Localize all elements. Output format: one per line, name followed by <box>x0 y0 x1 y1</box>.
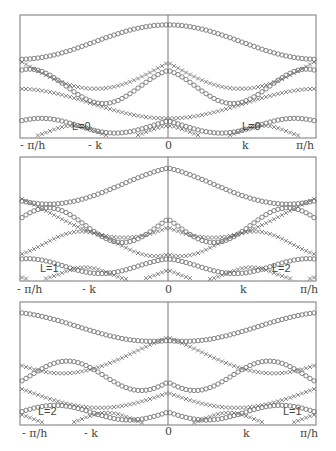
chart-panel-bottom: L=2 L=1 - π/h - k 0 k π/h <box>0 300 336 451</box>
annotation-left: L=1 <box>40 262 59 274</box>
x-tick-neg-pi-h: - π/h <box>22 427 47 440</box>
annotation-right: L=0 <box>242 120 261 132</box>
x-tick-neg-pi-h: - π/h <box>17 283 42 296</box>
x-tick-neg-k: - k <box>82 283 96 296</box>
x-tick-neg-k: - k <box>84 427 98 440</box>
plot-area-top <box>0 0 336 150</box>
annotation-left: L=0 <box>72 120 91 132</box>
x-tick-pi-h: π/h <box>300 283 318 296</box>
x-tick-pi-h: π/h <box>300 427 318 440</box>
annotation-right: L=2 <box>272 262 291 274</box>
annotation-left: L=2 <box>38 405 57 417</box>
x-tick-k: k <box>240 283 247 296</box>
annotation-right: L=1 <box>283 405 302 417</box>
chart-panel-top: L=0 L=0 - π/h - k 0 k π/h <box>0 0 336 150</box>
x-tick-zero: 0 <box>165 425 172 438</box>
chart-panel-middle: L=1 L=2 - π/h - k 0 k π/h <box>0 150 336 300</box>
plot-area-middle <box>0 150 336 300</box>
x-tick-k: k <box>243 427 250 440</box>
x-tick-zero: 0 <box>165 283 172 296</box>
